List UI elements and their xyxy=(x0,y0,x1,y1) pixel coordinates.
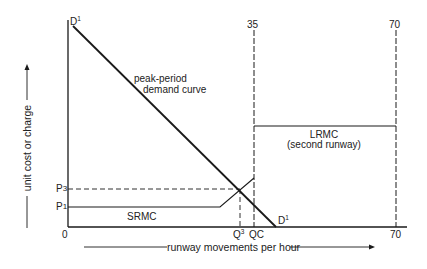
y-axis-label-group: unit cost or charge xyxy=(21,64,33,228)
capacity-top-label-35: 35 xyxy=(247,19,259,30)
price-label-p3: P3 xyxy=(56,183,68,194)
quantity-label-qc: QC xyxy=(249,229,264,240)
y-axis-label: unit cost or charge xyxy=(21,105,33,192)
cost-demand-diagram: unit cost or charge runway movements per… xyxy=(0,0,427,269)
x-axis-label-group: runway movements per hour xyxy=(84,241,375,253)
demand-caption-line2: demand curve xyxy=(143,84,207,95)
price-label-p1: P1 xyxy=(56,201,68,212)
quantity-label-q3: Q3 xyxy=(233,228,245,240)
y-axis-arrow-icon xyxy=(25,64,30,70)
x-axis-label: runway movements per hour xyxy=(167,241,301,253)
demand-curve xyxy=(73,26,276,227)
x-axis-label-70: 70 xyxy=(390,229,402,240)
x-axis-arrow-icon xyxy=(369,245,375,250)
demand-start-label: D1 xyxy=(70,15,81,27)
demand-end-label: D1 xyxy=(278,214,289,226)
srmc-curve xyxy=(68,178,254,207)
capacity-top-label-70: 70 xyxy=(389,19,401,30)
demand-caption-line1: peak-period xyxy=(134,73,187,84)
origin-label: 0 xyxy=(62,229,68,240)
lrmc-sublabel: (second runway) xyxy=(287,139,361,150)
srmc-label: SRMC xyxy=(127,211,156,222)
